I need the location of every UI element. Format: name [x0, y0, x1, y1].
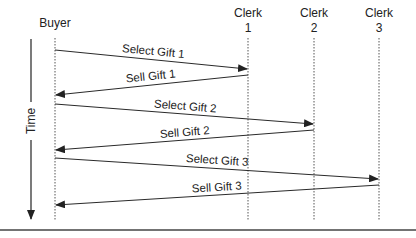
actor-clerk-3-number: 3 — [376, 21, 383, 35]
actor-clerk-2: Clerk 2 — [300, 6, 329, 35]
actor-clerk-2-label: Clerk — [300, 6, 329, 20]
message-sell-gift-3: Sell Gift 3 — [56, 179, 379, 205]
actor-clerk-1-number: 1 — [245, 21, 252, 35]
actor-clerk-2-number: 2 — [311, 21, 318, 35]
actor-clerk-3-label: Clerk — [365, 6, 394, 20]
message-select-gift-1: Select Gift 1 — [55, 42, 247, 69]
message-label: Sell Gift 1 — [125, 67, 176, 84]
message-sell-gift-2: Sell Gift 2 — [56, 124, 314, 150]
message-label: Select Gift 3 — [186, 152, 249, 168]
time-axis-label: Time — [24, 108, 38, 135]
actor-clerk-1: Clerk 1 — [234, 6, 263, 35]
message-label: Sell Gift 2 — [159, 124, 210, 140]
sequence-diagram: Buyer Clerk 1 Clerk 2 Clerk 3 Time Selec… — [0, 0, 416, 238]
message-select-gift-3: Select Gift 3 — [55, 152, 378, 179]
message-label: Sell Gift 3 — [192, 179, 242, 194]
actor-buyer-label: Buyer — [39, 16, 70, 30]
time-axis: Time — [24, 39, 38, 219]
message-select-gift-2: Select Gift 2 — [55, 98, 313, 124]
actor-clerk-1-label: Clerk — [234, 6, 263, 20]
actor-clerk-3: Clerk 3 — [365, 6, 394, 35]
message-sell-gift-1: Sell Gift 1 — [56, 67, 248, 95]
